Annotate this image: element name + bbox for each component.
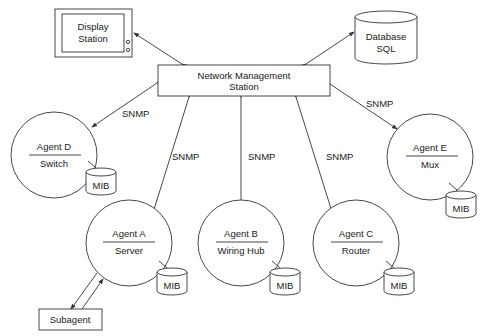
agent-a-role: Server [115, 245, 143, 256]
agent-d: Agent D Switch MIB [11, 112, 116, 198]
agent-b-role: Wiring Hub [218, 245, 265, 256]
agent-d-name: Agent D [37, 141, 71, 152]
agent-e-role: Mux [421, 159, 439, 170]
nms-label-1: Network Management [198, 70, 291, 81]
agent-a-mib-label: MIB [164, 280, 181, 291]
agent-e: Agent E Mux MIB [387, 114, 476, 218]
agent-c: Agent C Router MIB [313, 200, 414, 295]
snmp-label-a: SNMP [172, 151, 199, 162]
agent-c-role: Router [342, 245, 371, 256]
link-subagent-agent-a-up [82, 279, 103, 309]
agent-a: Agent A Server MIB [86, 200, 187, 295]
agent-b-name: Agent B [224, 228, 258, 239]
snmp-label-c: SNMP [326, 151, 353, 162]
agent-c-mib: MIB [384, 268, 414, 295]
agent-e-circle [387, 114, 473, 200]
agent-d-role: Switch [40, 158, 68, 169]
link-agent-a-subagent-down [71, 273, 97, 309]
subagent-label: Subagent [50, 314, 91, 325]
display-station-label-1: Display [77, 21, 108, 32]
agent-e-mib-label: MIB [453, 203, 470, 214]
nms-label-2: Station [229, 81, 259, 92]
snmp-label-d: SNMP [122, 108, 149, 119]
display-station-knob-2 [126, 48, 129, 51]
agent-e-mib: MIB [446, 191, 476, 218]
agent-b-mib: MIB [270, 268, 300, 295]
network-management-station: Network Management Station [158, 65, 330, 96]
database-cylinder: Database SQL [355, 11, 417, 64]
agent-d-mib-label: MIB [93, 180, 110, 191]
link-nms-database [306, 32, 354, 64]
display-station-label-2: Station [78, 33, 108, 44]
agent-a-mib: MIB [157, 268, 187, 295]
database-top [355, 11, 417, 23]
link-nms-agent-d [92, 83, 157, 127]
agent-d-mib: MIB [86, 168, 116, 195]
agent-c-name: Agent C [339, 228, 373, 239]
agent-b: Agent B Wiring Hub MIB [198, 200, 300, 295]
agent-e-name: Agent E [413, 142, 447, 153]
agent-c-mib-label: MIB [391, 280, 408, 291]
subagent: Subagent [39, 309, 102, 330]
snmp-label-b: SNMP [248, 151, 275, 162]
display-station: Display Station [55, 9, 132, 57]
snmp-architecture-diagram: Display Station Database SQL Network Man… [0, 0, 481, 336]
agent-a-name: Agent A [112, 228, 146, 239]
snmp-label-e: SNMP [366, 98, 393, 109]
link-nms-display [134, 33, 182, 64]
display-station-knob-1 [126, 40, 129, 43]
database-label-2: SQL [376, 43, 395, 54]
agent-b-mib-label: MIB [277, 280, 294, 291]
database-label-1: Database [366, 31, 407, 42]
